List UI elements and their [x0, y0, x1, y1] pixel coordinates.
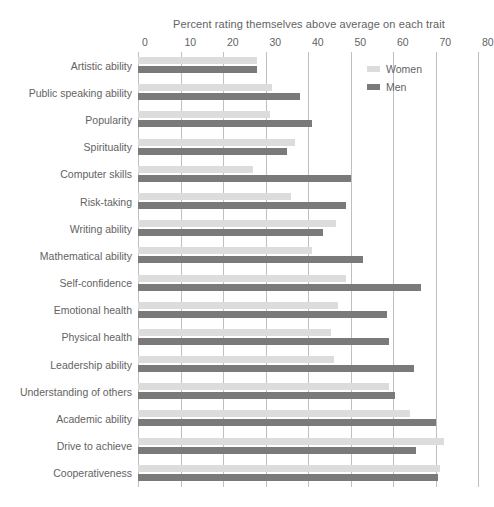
bar-group-row: Spirituality [138, 134, 478, 161]
bar-group-row: Risk-taking [138, 188, 478, 215]
bar-group-row: Popularity [138, 106, 478, 133]
chart-title: Percent rating themselves above average … [138, 18, 480, 30]
bar-women-8 [138, 275, 346, 282]
x-tick-label-10: 10 [181, 36, 197, 48]
bar-women-6 [138, 220, 336, 227]
bar-group-row: Physical health [138, 324, 478, 351]
bar-men-12 [138, 392, 395, 399]
legend-label-men: Men [386, 81, 406, 93]
bar-women-4 [138, 166, 253, 173]
bar-women-11 [138, 356, 334, 363]
bar-women-3 [138, 139, 295, 146]
x-tick-label-70: 70 [436, 36, 452, 48]
bar-group-row: Understanding of others [138, 378, 478, 405]
x-tick-label-0: 0 [138, 36, 148, 48]
bar-men-3 [138, 148, 287, 155]
bar-men-14 [138, 447, 416, 454]
category-label-15: Cooperativeness [53, 467, 132, 479]
bar-group-row: Self-confidence [138, 270, 478, 297]
category-label-9: Emotional health [54, 304, 132, 316]
category-label-2: Popularity [85, 114, 132, 126]
bar-men-13 [138, 419, 436, 426]
category-label-5: Risk-taking [80, 196, 132, 208]
plot-area: 01020304050607080 Artistic abilityPublic… [138, 52, 478, 487]
bar-group-row: Computer skills [138, 161, 478, 188]
category-label-7: Mathematical ability [40, 250, 132, 262]
bar-group-row: Drive to achieve [138, 433, 478, 460]
x-tick-label-80: 80 [478, 36, 494, 48]
category-label-3: Spirituality [84, 141, 132, 153]
bar-women-9 [138, 302, 338, 309]
bar-women-0 [138, 57, 257, 64]
legend-entry-men: Men [367, 79, 457, 94]
bar-women-7 [138, 247, 312, 254]
gridline-80 [478, 52, 479, 487]
category-label-13: Academic ability [56, 413, 132, 425]
bar-men-9 [138, 311, 387, 318]
x-tick-label-50: 50 [351, 36, 367, 48]
men-swatch-icon [367, 84, 380, 90]
category-label-14: Drive to achieve [57, 440, 132, 452]
bar-group-row: Leadership ability [138, 351, 478, 378]
bar-men-4 [138, 175, 351, 182]
bar-women-14 [138, 438, 444, 445]
bar-group-row: Cooperativeness [138, 460, 478, 487]
bar-men-11 [138, 365, 414, 372]
bar-women-1 [138, 84, 272, 91]
bar-men-2 [138, 120, 312, 127]
bar-men-5 [138, 202, 346, 209]
bar-group-row: Writing ability [138, 215, 478, 242]
bar-men-0 [138, 66, 257, 73]
bar-group-row: Emotional health [138, 297, 478, 324]
category-label-8: Self-confidence [60, 277, 132, 289]
x-tick-label-20: 20 [223, 36, 239, 48]
bar-women-2 [138, 111, 270, 118]
bar-women-12 [138, 383, 389, 390]
bar-men-7 [138, 256, 363, 263]
women-swatch-icon [367, 66, 380, 72]
category-label-10: Physical health [61, 331, 132, 343]
category-label-0: Artistic ability [71, 60, 132, 72]
legend-entry-women: Women [367, 61, 457, 76]
category-label-6: Writing ability [70, 223, 132, 235]
bar-group-row: Academic ability [138, 405, 478, 432]
category-label-1: Public speaking ability [29, 87, 132, 99]
category-label-4: Computer skills [60, 168, 132, 180]
bar-women-5 [138, 193, 291, 200]
bar-group-row: Mathematical ability [138, 242, 478, 269]
bar-men-15 [138, 474, 438, 481]
bar-women-10 [138, 329, 331, 336]
x-tick-label-60: 60 [393, 36, 409, 48]
bar-men-1 [138, 93, 300, 100]
bar-men-6 [138, 229, 323, 236]
bar-men-8 [138, 284, 421, 291]
x-tick-label-30: 30 [266, 36, 282, 48]
bar-women-13 [138, 410, 410, 417]
x-tick-label-40: 40 [308, 36, 324, 48]
category-label-12: Understanding of others [20, 386, 132, 398]
bar-men-10 [138, 338, 389, 345]
bar-women-15 [138, 465, 440, 472]
legend-label-women: Women [386, 63, 422, 75]
category-label-11: Leadership ability [50, 359, 132, 371]
chart-legend: WomenMen [367, 61, 457, 97]
